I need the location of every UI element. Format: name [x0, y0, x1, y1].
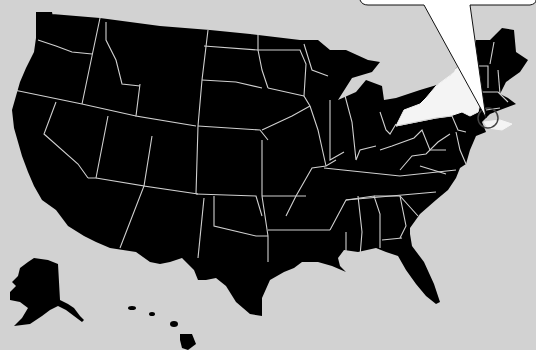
alaska-inset [10, 258, 84, 326]
us-map-svg [0, 0, 536, 350]
contiguous-us-landmass [12, 12, 528, 316]
us-map-figure [0, 0, 536, 350]
hawaii-inset [128, 306, 196, 350]
